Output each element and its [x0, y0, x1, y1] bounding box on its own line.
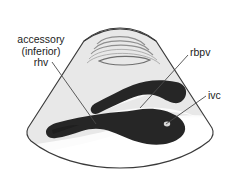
ivc-internal-echo-dot: [164, 122, 170, 127]
ultrasound-diagram-figure: accessory (inferior) rhv rbpv ivc: [0, 0, 239, 182]
label-rbpv: rbpv: [190, 47, 210, 59]
label-rhv-line1: accessory: [5, 34, 77, 46]
label-ivc: ivc: [208, 90, 221, 102]
fan-interior: [0, 0, 239, 182]
label-rhv-line3: rhv: [5, 57, 77, 69]
label-accessory-inferior-rhv: accessory (inferior) rhv: [5, 34, 77, 69]
ultrasound-sector-drawing: [0, 0, 239, 182]
